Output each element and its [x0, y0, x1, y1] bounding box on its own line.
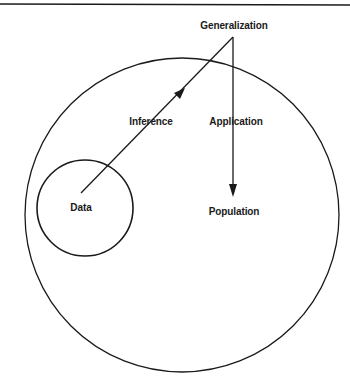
population-label: Population	[209, 206, 260, 217]
diagram-canvas	[0, 0, 350, 386]
inference-arrowhead	[174, 88, 185, 99]
data-label: Data	[70, 202, 91, 213]
application-arrowhead	[229, 184, 237, 197]
generalization-label: Generalization	[200, 20, 268, 31]
inference-label: Inference	[129, 116, 173, 127]
population-circle	[25, 58, 339, 372]
top-rule	[0, 4, 350, 5]
application-label: Application	[209, 116, 262, 127]
